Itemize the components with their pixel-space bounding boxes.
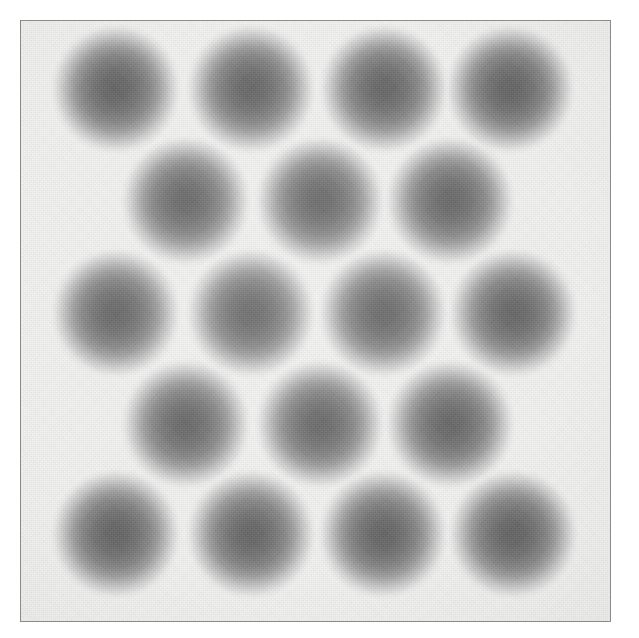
lattice-dot: [50, 23, 182, 155]
lattice-dot: [384, 358, 516, 490]
lattice-dot: [384, 135, 516, 267]
plate-border: [20, 20, 611, 622]
lattice-dot: [447, 468, 579, 600]
lattice-dot: [317, 247, 449, 379]
lattice-dot: [447, 247, 579, 379]
lattice-dot: [120, 358, 252, 490]
lattice-dot: [318, 23, 450, 155]
lattice-dot: [254, 135, 386, 267]
lattice-dot: [444, 23, 576, 155]
lattice-dot: [120, 135, 252, 267]
lattice-dot: [185, 23, 317, 155]
lattice-dot: [185, 247, 317, 379]
lattice-dot: [317, 468, 449, 600]
dot-field: [21, 21, 610, 621]
lattice-dot: [50, 468, 182, 600]
lattice-dot: [254, 358, 386, 490]
lattice-dot: [50, 247, 182, 379]
lattice-dot: [185, 468, 317, 600]
figure-root: [0, 0, 639, 638]
